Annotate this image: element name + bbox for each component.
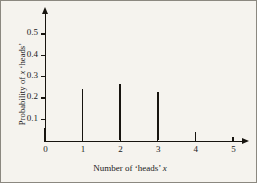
x-tick-label: 2 — [116, 144, 126, 154]
y-tick-label: 0.3 — [27, 70, 38, 80]
y-axis-label: Probability of x ‘heads’ — [17, 14, 27, 154]
chart-figure: Probability of x ‘heads’ Number of ‘head… — [0, 0, 257, 183]
data-spike-x3 — [157, 92, 159, 141]
y-tick-0.4: 0.4 — [41, 55, 46, 56]
x-tick-label: 0 — [40, 144, 50, 154]
x-tick-label: 4 — [191, 144, 201, 154]
y-tick-label: 0.4 — [27, 49, 38, 59]
y-axis-label-before: Probability of — [17, 75, 27, 126]
data-spike-x1 — [82, 89, 84, 140]
x-axis-label: Number of ‘heads’ x — [45, 163, 215, 173]
x-tick-label: 1 — [78, 144, 88, 154]
data-spike-x2 — [119, 84, 121, 140]
y-tick-0.2: 0.2 — [41, 97, 46, 98]
y-tick-label: 0.2 — [27, 91, 38, 101]
x-tick-5: 5 — [232, 137, 233, 142]
y-axis-label-after: ‘heads’ — [17, 43, 27, 71]
x-axis-line — [45, 141, 243, 142]
data-spike-x4 — [195, 132, 197, 141]
y-axis-label-variable: x — [17, 71, 27, 75]
x-axis-label-variable: x — [163, 163, 167, 173]
y-tick-0.3: 0.3 — [41, 76, 46, 77]
x-axis-arrow-icon — [242, 138, 249, 144]
y-tick-0.1: 0.1 — [41, 119, 46, 120]
x-tick-label: 5 — [228, 144, 238, 154]
x-axis-label-before: Number of ‘heads’ — [93, 163, 163, 173]
y-tick-0.5: 0.5 — [41, 33, 46, 34]
y-axis-arrow-icon — [42, 7, 48, 14]
plot-area: Probability of x ‘heads’ Number of ‘head… — [1, 1, 256, 182]
y-tick-label: 0.5 — [27, 27, 38, 37]
x-tick-label: 3 — [153, 144, 163, 154]
data-spike-x0 — [44, 128, 46, 141]
y-tick-label: 0.1 — [27, 113, 38, 123]
